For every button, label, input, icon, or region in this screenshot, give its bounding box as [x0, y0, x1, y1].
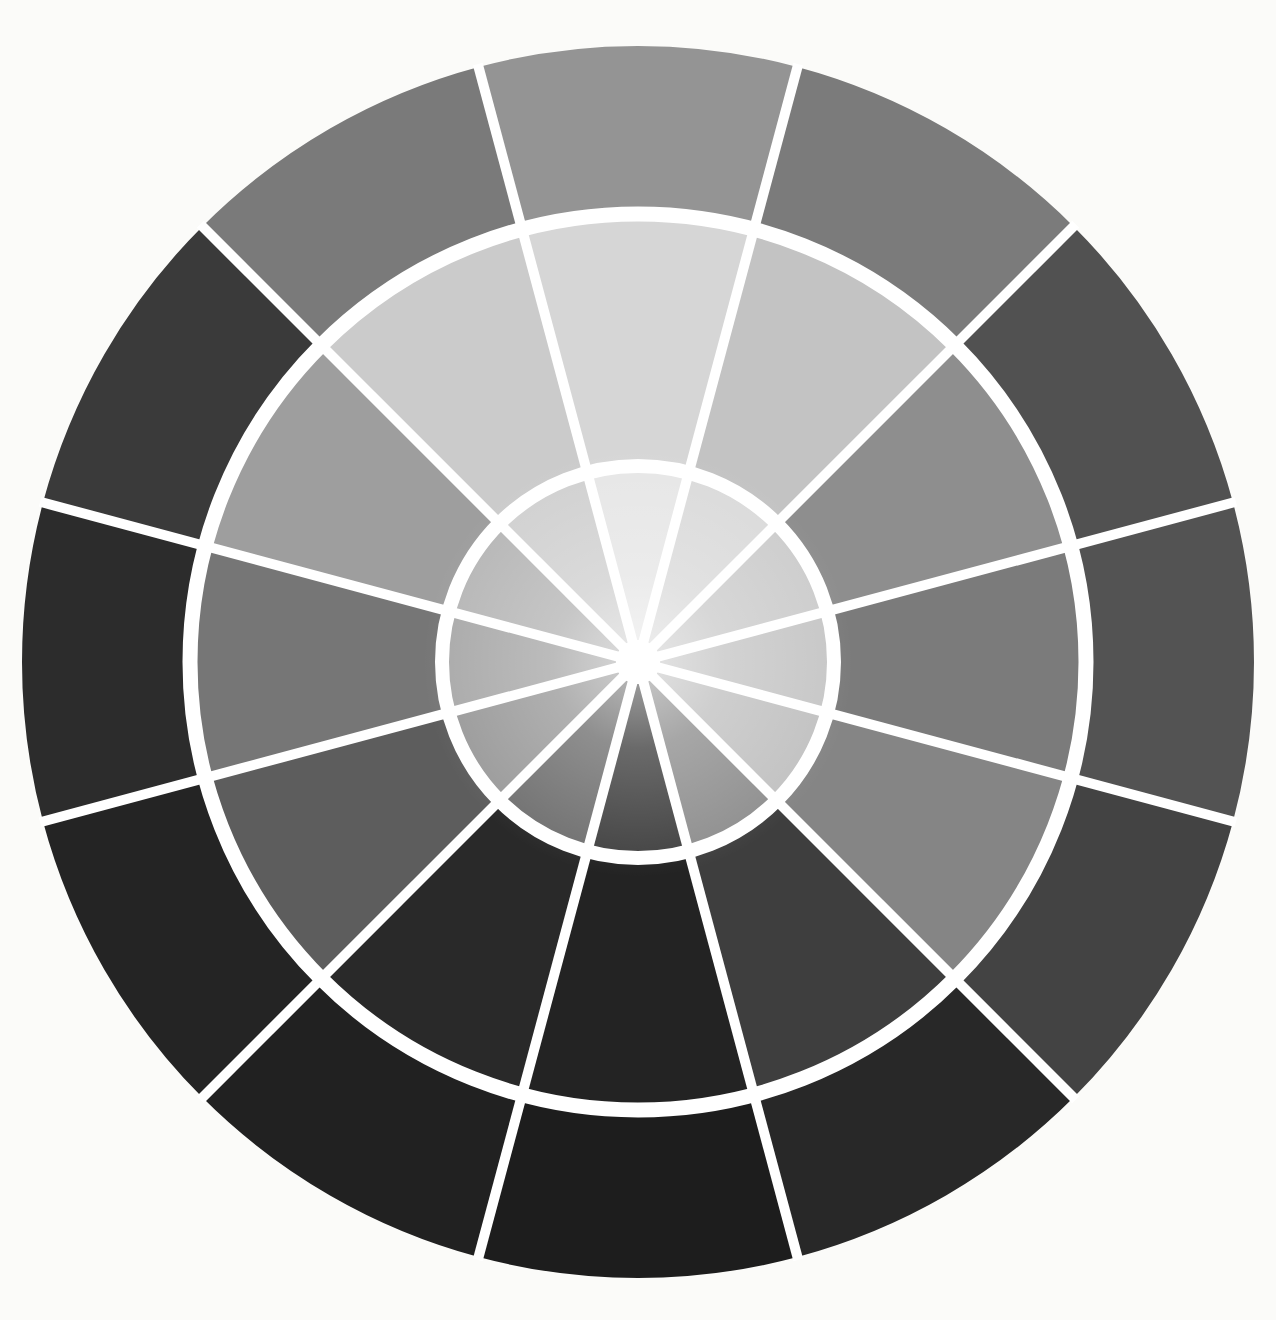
sector-hour-6-outer [479, 1095, 798, 1278]
value-wheel-figure [0, 0, 1276, 1320]
sector-hour-9-outer [22, 503, 205, 822]
page-background [0, 0, 1276, 1320]
color-wheel [0, 0, 1276, 1320]
sector-hour-3-outer [1071, 503, 1254, 822]
sector-hour-12-outer [479, 46, 798, 229]
center-hub-dot [616, 640, 660, 684]
